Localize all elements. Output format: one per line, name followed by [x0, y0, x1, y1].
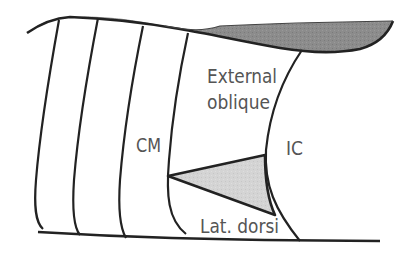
label-lat-dorsi: Lat. dorsi — [200, 214, 279, 238]
division-line-3 — [119, 26, 143, 238]
muscle-diagram: External oblique CM IC Lat. dorsi — [0, 0, 413, 257]
division-line-1 — [35, 20, 59, 229]
label-cm: CM — [136, 133, 161, 157]
label-external-oblique-1: External — [207, 64, 277, 88]
label-external-oblique-2: oblique — [207, 90, 270, 114]
label-ic: IC — [286, 136, 303, 160]
division-line-2 — [73, 18, 98, 235]
lumbar-triangle — [168, 155, 275, 215]
division-line-4 — [168, 33, 188, 234]
